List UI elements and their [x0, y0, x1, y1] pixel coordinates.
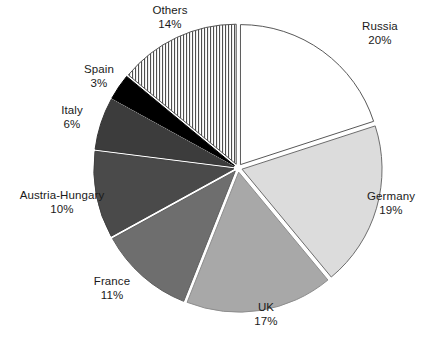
- slice-label-russia-name: Russia: [340, 20, 420, 34]
- slice-label-austria-hungary-name: Austria-Hungary: [4, 189, 120, 203]
- slice-label-others: Others 14%: [128, 4, 212, 31]
- slice-label-spain-name: Spain: [68, 63, 130, 77]
- slice-label-spain: Spain 3%: [68, 63, 130, 90]
- slice-label-spain-percent: 3%: [68, 77, 130, 91]
- pie-chart-canvas: [0, 0, 439, 350]
- caption-text: [0, 336, 439, 350]
- slice-label-uk: UK 17%: [233, 301, 299, 328]
- slice-label-france: France 11%: [79, 275, 145, 302]
- slice-label-russia: Russia 20%: [340, 20, 420, 47]
- slice-label-austria-hungary-percent: 10%: [4, 203, 120, 217]
- slice-label-austria-hungary: Austria-Hungary 10%: [4, 189, 120, 216]
- slice-label-russia-percent: 20%: [340, 34, 420, 48]
- slice-label-others-name: Others: [128, 4, 212, 18]
- slice-label-france-name: France: [79, 275, 145, 289]
- slice-label-france-percent: 11%: [79, 289, 145, 303]
- slice-label-italy-percent: 6%: [42, 118, 102, 132]
- slice-label-germany-name: Germany: [351, 190, 431, 204]
- slice-label-uk-name: UK: [233, 301, 299, 315]
- pie-chart: Others 14% Russia 20% Germany 19% UK 17%…: [0, 0, 439, 350]
- slice-label-italy-name: Italy: [42, 104, 102, 118]
- slice-label-germany-percent: 19%: [351, 204, 431, 218]
- slice-label-uk-percent: 17%: [233, 315, 299, 329]
- slice-label-italy: Italy 6%: [42, 104, 102, 131]
- slice-label-germany: Germany 19%: [351, 190, 431, 217]
- pie-slices: [94, 24, 382, 312]
- slice-label-others-percent: 14%: [128, 18, 212, 32]
